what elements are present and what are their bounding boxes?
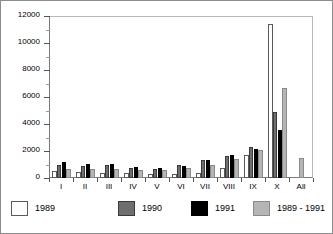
bar-group: [217, 16, 241, 178]
bar: [234, 159, 239, 178]
legend-entry[interactable]: 1989: [11, 199, 55, 217]
bar: [210, 165, 215, 179]
legend-swatch-icon: [191, 201, 208, 216]
bar-group: [241, 16, 265, 178]
bars-layer: [49, 16, 313, 178]
x-axis-tick-mark: [193, 178, 194, 182]
x-axis-tick-mark: [217, 178, 218, 182]
y-axis-tick-label: 10000: [18, 37, 40, 46]
legend-swatch-icon: [118, 201, 135, 216]
bar: [66, 169, 71, 178]
x-axis-tick-label: X: [274, 182, 279, 192]
legend-swatch-icon: [11, 201, 28, 216]
x-axis-tick-mark: [169, 178, 170, 182]
bar: [90, 169, 95, 178]
x-axis-tick-label: VII: [200, 182, 210, 192]
x-axis-tick-mark: [121, 178, 122, 182]
bar-group: [49, 16, 73, 178]
legend-label: 1989 - 1991: [277, 203, 325, 213]
x-axis-tick-mark: [289, 178, 290, 182]
x-axis-tick-mark: [265, 178, 266, 182]
bar: [114, 169, 119, 178]
bar: [138, 170, 143, 178]
legend-entry[interactable]: 1989 - 1991: [253, 199, 325, 217]
y-axis-tick-label: 8000: [22, 64, 40, 73]
legend-label: 1990: [142, 203, 162, 213]
bar-group: [73, 16, 97, 178]
y-axis-tick-label: 12000: [18, 10, 40, 19]
x-axis-tick-label: VI: [177, 182, 185, 192]
x-axis-tick-label: VIII: [223, 182, 235, 192]
x-axis-tick-mark: [49, 178, 50, 182]
x-axis-tick-label: IX: [249, 182, 257, 192]
bar: [282, 88, 287, 178]
bar: [299, 158, 304, 178]
legend-swatch-icon: [253, 201, 270, 216]
y-axis-tick-label: 6000: [22, 91, 40, 100]
x-axis-tick-label: V: [154, 182, 159, 192]
bar-group: [193, 16, 217, 178]
chart-figure: 020004000600080001000012000 IIIIIIIVVVIV…: [0, 0, 333, 234]
x-axis: IIIIIIIVVVIVIIVIIIIXXAll: [49, 178, 313, 192]
bar: [258, 150, 263, 178]
y-axis-tick-label: 2000: [22, 145, 40, 154]
x-axis-tick-label: IV: [129, 182, 137, 192]
bar: [186, 168, 191, 178]
bar: [162, 170, 167, 178]
x-axis-tick-mark: [241, 178, 242, 182]
bar-group: [145, 16, 169, 178]
bar-group: [169, 16, 193, 178]
bar-group: [121, 16, 145, 178]
bar-group: [289, 16, 313, 178]
bar-group: [265, 16, 289, 178]
legend-entry[interactable]: 1991: [191, 199, 235, 217]
chart-legend: 1989199019911989 - 1991: [1, 199, 332, 225]
x-axis-tick-label: I: [60, 182, 62, 192]
x-axis-tick-label: III: [106, 182, 113, 192]
x-axis-tick-label: All: [297, 182, 306, 192]
x-axis-tick-mark: [73, 178, 74, 182]
x-axis-tick-mark: [313, 178, 314, 182]
legend-label: 1991: [215, 203, 235, 213]
legend-entry[interactable]: 1990: [118, 199, 162, 217]
legend-label: 1989: [35, 203, 55, 213]
y-axis-tick-label: 4000: [22, 118, 40, 127]
plot-area: 020004000600080001000012000: [1, 1, 332, 191]
y-axis-tick-label: 0: [36, 172, 40, 181]
bar-group: [97, 16, 121, 178]
x-axis-tick-mark: [145, 178, 146, 182]
x-axis-tick-label: II: [83, 182, 87, 192]
x-axis-tick-mark: [97, 178, 98, 182]
